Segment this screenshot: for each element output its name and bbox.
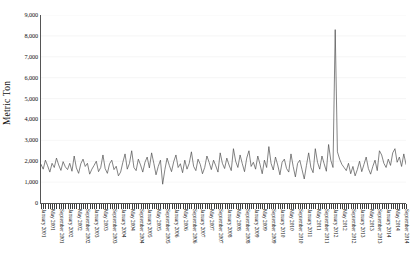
x-axis-tick-label: September 2002 <box>85 209 90 243</box>
x-axis-tick-label: January 2007 <box>200 209 205 237</box>
x-axis-tick-label: May 2006 <box>182 209 187 231</box>
y-axis-tick-label: 7,000 <box>25 54 38 60</box>
x-axis-tick-label: May 2003 <box>102 209 107 231</box>
y-axis-tick-label: 0 <box>35 200 38 206</box>
x-axis-tick-label: September 2013 <box>377 209 382 243</box>
x-axis-tick-label: September 2001 <box>58 209 63 243</box>
y-axis-tick-label: 5,000 <box>25 95 38 101</box>
x-axis-tick-label: January 2013 <box>359 209 364 237</box>
x-axis-tick-label: January 2002 <box>67 209 72 237</box>
y-axis-tick-label: 8,000 <box>25 33 38 39</box>
y-axis-tick-label: 4,000 <box>25 116 38 122</box>
y-axis-title: Metric Ton <box>0 0 14 205</box>
x-axis-tick-label: May 2011 <box>315 209 320 230</box>
x-axis-tick-label: September 2010 <box>297 209 302 243</box>
x-axis-tick-label: May 2007 <box>209 209 214 231</box>
x-axis-tick-label: May 2001 <box>49 209 54 231</box>
x-axis-tick-label: September 2004 <box>138 209 143 243</box>
x-axis-tick-label: September 2014 <box>403 209 408 243</box>
x-axis-tick-labels: January 2001May 2001September 2001Januar… <box>41 209 406 261</box>
y-axis-tick-label: 2,000 <box>25 158 38 164</box>
x-axis-tick-label: January 2009 <box>253 209 258 237</box>
x-axis-tick-label: May 2010 <box>288 209 293 231</box>
x-axis-tick-label: May 2008 <box>235 209 240 231</box>
x-axis-tick-label: September 2009 <box>271 209 276 243</box>
x-axis-tick-label: September 2012 <box>350 209 355 243</box>
x-axis-tick-label: May 2002 <box>76 209 81 231</box>
series-line-svg <box>41 15 406 203</box>
x-axis-tick-label: May 2014 <box>394 209 399 231</box>
x-axis-tick-label: September 2007 <box>217 209 222 243</box>
line-chart: Metric Ton 01,0002,0003,0004,0005,0006,0… <box>0 0 410 261</box>
x-axis-tick-label: September 2011 <box>324 209 329 243</box>
gridlines <box>41 15 406 182</box>
x-axis-tick-label: September 2008 <box>244 209 249 243</box>
x-axis-tick-label: January 2006 <box>173 209 178 237</box>
x-axis-tick-label: September 2003 <box>111 209 116 243</box>
x-axis-tick-label: January 2008 <box>226 209 231 237</box>
x-axis-tick-label: May 2005 <box>156 209 161 231</box>
plot-area <box>41 15 406 203</box>
x-axis-tick-label: January 2004 <box>120 209 125 237</box>
x-axis-tick-label: January 2005 <box>147 209 152 237</box>
x-axis-tick-label: May 2009 <box>262 209 267 231</box>
x-axis-tick-label: May 2012 <box>341 209 346 231</box>
x-axis-tick-label: January 2014 <box>386 209 391 237</box>
x-axis-tick-label: January 2001 <box>40 209 45 237</box>
y-axis-tick-label: 6,000 <box>25 75 38 81</box>
x-axis-tick-label: January 2011 <box>306 209 311 237</box>
x-axis-tick-label: January 2003 <box>94 209 99 237</box>
y-axis-tick-label: 1,000 <box>25 179 38 185</box>
x-axis-tick-label: January 2012 <box>332 209 337 237</box>
y-axis-tick-labels: 01,0002,0003,0004,0005,0006,0007,0008,00… <box>14 0 40 210</box>
x-axis-tick-label: May 2004 <box>129 209 134 231</box>
x-axis-tick-label: January 2010 <box>279 209 284 237</box>
x-axis-tick-label: May 2013 <box>368 209 373 231</box>
x-axis-tick-label: September 2006 <box>191 209 196 243</box>
y-axis-tick-label: 9,000 <box>25 12 38 18</box>
y-axis-tick-label: 3,000 <box>25 137 38 143</box>
x-axis-tick-label: September 2005 <box>164 209 169 243</box>
y-axis-title-text: Metric Ton <box>2 80 12 124</box>
